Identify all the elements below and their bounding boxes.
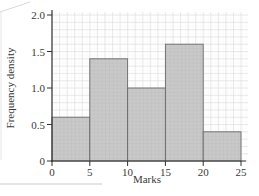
y-tick-label: 2.0	[31, 9, 45, 21]
x-tick-label: 5	[87, 166, 93, 178]
y-tick-label: 0.5	[31, 119, 45, 131]
y-axis-ticks: 00.51.01.52.0	[31, 9, 52, 167]
histogram-bar	[203, 132, 241, 161]
histogram-bar	[165, 44, 203, 161]
x-axis-label: Marks	[133, 173, 161, 185]
x-tick-label: 25	[236, 166, 248, 178]
page-edge-line	[0, 2, 30, 12]
histogram-chart: 00.51.01.52.0 0510152025 Marks Frequency…	[0, 0, 259, 196]
histogram-bar	[128, 88, 166, 161]
y-tick-label: 1.0	[31, 82, 45, 94]
x-tick-label: 10	[122, 166, 134, 178]
histogram-bar	[90, 59, 128, 161]
x-tick-label: 15	[160, 166, 172, 178]
x-tick-label: 0	[49, 166, 55, 178]
y-tick-label: 1.5	[31, 46, 45, 58]
histogram-bar	[52, 117, 90, 161]
y-tick-label: 0	[40, 155, 46, 167]
y-axis-label: Frequency density	[4, 47, 16, 128]
x-tick-label: 20	[198, 166, 210, 178]
